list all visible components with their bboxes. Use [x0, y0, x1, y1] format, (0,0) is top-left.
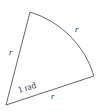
left-side-label: r [9, 47, 13, 57]
arc-label: r [75, 24, 79, 34]
bottom-side-label: r [51, 91, 55, 101]
angle-label: 1 rad [17, 80, 38, 95]
radian-sector-diagram: r r r 1 rad [0, 0, 102, 111]
